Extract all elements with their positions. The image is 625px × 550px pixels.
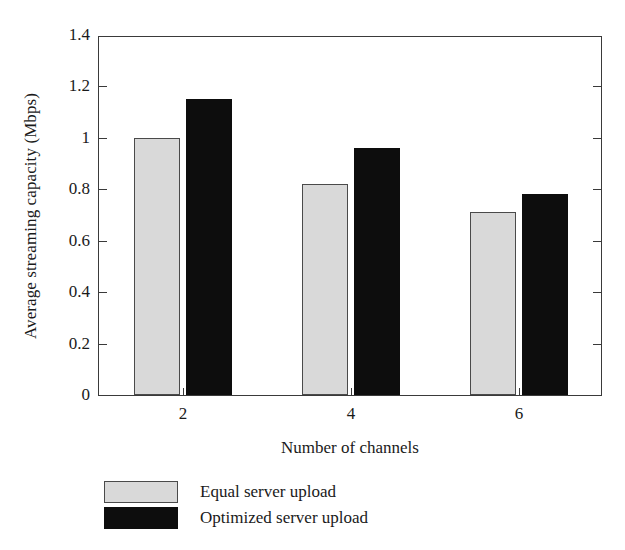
x-tick-mark — [519, 388, 520, 395]
legend-label: Equal server upload — [200, 482, 336, 502]
y-tick-mark — [99, 344, 107, 345]
y-tick-label: 0.4 — [69, 282, 90, 302]
bar — [302, 184, 348, 395]
bar — [186, 99, 232, 395]
bar-chart-figure: Average streaming capacity (Mbps) 00.20.… — [0, 0, 625, 550]
y-tick-label: 0.6 — [69, 231, 90, 251]
legend-item: Equal server upload — [104, 479, 368, 505]
legend-label: Optimized server upload — [200, 508, 368, 528]
x-axis-title: Number of channels — [98, 438, 602, 458]
x-tick-mark — [183, 388, 184, 395]
chart-legend: Equal server uploadOptimized server uplo… — [104, 479, 368, 531]
y-tick-label: 0.8 — [69, 179, 90, 199]
plot-area: 00.20.40.60.811.21.4 246 — [98, 36, 602, 396]
y-tick-label: 1 — [82, 128, 91, 148]
y-tick-mark-right — [593, 241, 601, 242]
bar — [354, 148, 400, 395]
y-tick-label: 1.4 — [69, 25, 90, 45]
y-tick-mark — [99, 292, 107, 293]
y-tick-label: 0 — [82, 385, 91, 405]
y-tick-mark-right — [593, 138, 601, 139]
x-tick-mark — [351, 388, 352, 395]
y-tick-label: 1.2 — [69, 76, 90, 96]
y-tick-mark-right — [593, 189, 601, 190]
y-tick-mark — [99, 138, 107, 139]
bar — [522, 194, 568, 395]
y-tick-mark — [99, 189, 107, 190]
y-tick-mark — [99, 241, 107, 242]
black-swatch — [104, 507, 178, 529]
y-tick-mark — [99, 86, 107, 87]
y-tick-mark-right — [593, 292, 601, 293]
light-gray-swatch — [104, 481, 178, 503]
y-tick-mark-right — [593, 86, 601, 87]
y-tick-mark-right — [593, 344, 601, 345]
legend-item: Optimized server upload — [104, 505, 368, 531]
x-tick-label: 2 — [179, 404, 188, 424]
y-axis-title: Average streaming capacity (Mbps) — [14, 36, 48, 396]
x-tick-label: 4 — [347, 404, 356, 424]
bar — [134, 138, 180, 395]
bar — [470, 212, 516, 395]
y-tick-label: 0.2 — [69, 334, 90, 354]
x-tick-label: 6 — [515, 404, 524, 424]
